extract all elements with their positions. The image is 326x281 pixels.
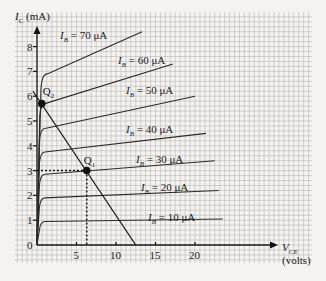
y-tick-label: 2 xyxy=(27,189,33,201)
x-axis-unit: (volts) xyxy=(282,254,311,267)
operating-point-q2 xyxy=(38,100,46,108)
y-tick-label: 3 xyxy=(27,165,33,177)
curve-label: IB = 20 μA xyxy=(140,181,188,196)
grid xyxy=(15,12,312,263)
y-tick-label: 6 xyxy=(27,90,33,102)
transistor-characteristic-chart: 0123456785101520 IB = 10 μAIB = 20 μAIB … xyxy=(0,0,326,281)
operating-point-q1 xyxy=(83,167,91,175)
y-tick-label: 7 xyxy=(27,65,33,77)
y-tick-label: 4 xyxy=(27,140,33,152)
x-tick-label: 20 xyxy=(189,249,201,261)
y-tick-label: 1 xyxy=(27,214,33,226)
y-tick-label: 8 xyxy=(27,41,33,53)
operating-point-label: Q2 xyxy=(43,85,55,100)
x-tick-label: 15 xyxy=(150,249,162,261)
x-tick-label: 5 xyxy=(74,249,80,261)
y-axis-arrow-icon xyxy=(34,26,41,34)
x-tick-label: 10 xyxy=(110,249,122,261)
y-tick-label: 0 xyxy=(27,239,33,251)
curve-label: IB = 10 μA xyxy=(147,211,195,226)
y-tick-label: 5 xyxy=(27,115,33,127)
